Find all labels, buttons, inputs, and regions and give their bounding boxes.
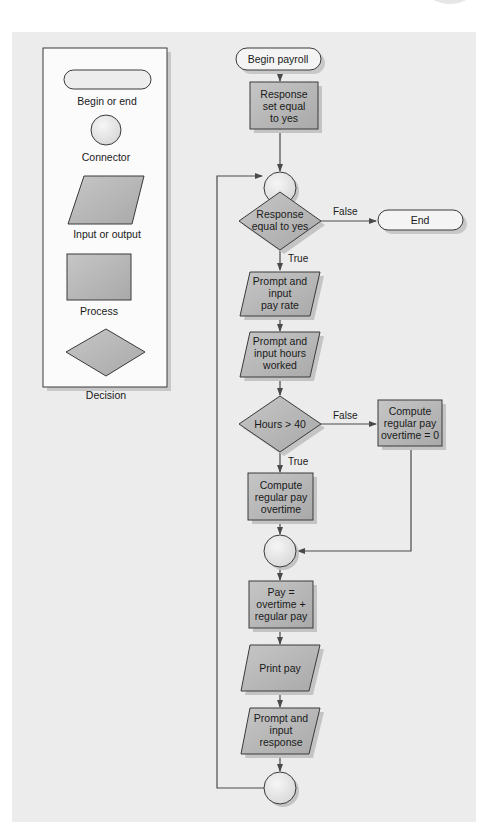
merge-connector: [264, 535, 299, 570]
compute-no-overtime-process: Compute regular pay overtime = 0: [378, 400, 446, 450]
response-line-3: response: [259, 736, 302, 748]
init-line-1: Response: [260, 88, 307, 100]
false-label-response: False: [333, 206, 358, 217]
hours-line-3: worked: [262, 359, 297, 371]
decision-response-equal-yes: Response equal to yes: [239, 192, 325, 254]
false-label-hours: False: [333, 410, 358, 421]
response-line-2: input: [270, 724, 293, 736]
end-terminator: End: [378, 210, 467, 234]
ot-line-2: regular pay: [255, 491, 308, 503]
pay-rate-line-3: pay rate: [261, 299, 299, 311]
legend-label-begin-or-end: Begin or end: [77, 95, 137, 107]
response-line-1: Prompt and: [254, 712, 308, 724]
compute-overtime-process: Compute regular pay overtime: [248, 473, 317, 524]
end-label: End: [411, 214, 430, 226]
hours-line-2: input hours: [254, 347, 306, 359]
hours-line-1: Prompt and: [253, 335, 307, 347]
begin-label: Begin payroll: [248, 53, 309, 65]
print-pay-io: Print pay: [241, 645, 324, 695]
no-ot-line-3: overtime = 0: [381, 429, 439, 441]
decision-response-line-1: Response: [256, 208, 303, 220]
true-label-hours: True: [288, 456, 309, 467]
loop-connector-bottom: [264, 772, 299, 807]
init-line-3: to yes: [270, 112, 298, 124]
no-ot-line-2: regular pay: [384, 417, 437, 429]
legend-label-decision: Decision: [86, 389, 126, 401]
pay-line-2: overtime +: [256, 598, 305, 610]
pay-calculation-process: Pay = overtime + regular pay: [249, 581, 317, 632]
init-response-process: Response set equal to yes: [250, 82, 322, 133]
legend-label-connector: Connector: [82, 151, 131, 163]
pay-line-1: Pay =: [267, 586, 294, 598]
ot-line-3: overtime: [261, 503, 301, 515]
decision-hours-over-40: Hours > 40: [239, 396, 325, 456]
pay-rate-line-1: Prompt and: [253, 275, 307, 287]
init-line-2: set equal: [263, 100, 306, 112]
begin-payroll-terminator: Begin payroll: [236, 48, 325, 74]
print-pay-label: Print pay: [259, 662, 301, 674]
decision-response-line-2: equal to yes: [252, 220, 309, 232]
true-label-response: True: [288, 253, 309, 264]
decision-hours-label: Hours > 40: [254, 418, 306, 430]
pay-line-3: regular pay: [255, 610, 308, 622]
no-ot-line-1: Compute: [389, 405, 432, 417]
input-hours-worked-io: Prompt and input hours worked: [240, 332, 324, 381]
input-pay-rate-io: Prompt and input pay rate: [240, 272, 324, 320]
legend: Begin or end Connector Input or output P…: [43, 48, 171, 401]
legend-label-input-or-output: Input or output: [73, 228, 141, 240]
pay-rate-line-2: input: [269, 287, 292, 299]
ot-line-1: Compute: [260, 479, 303, 491]
input-response-io: Prompt and input response: [241, 708, 324, 758]
payroll-flowchart: Begin or end Connector Input or output P…: [0, 0, 494, 832]
legend-label-process: Process: [80, 305, 118, 317]
